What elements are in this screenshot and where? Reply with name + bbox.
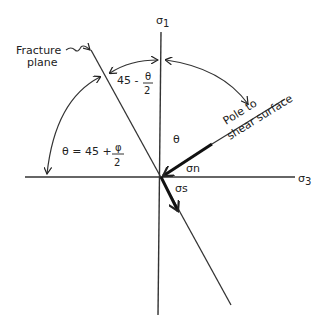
sigma3-label: σ3 [298,172,311,187]
angle-upper-num: θ [145,71,151,82]
angle-lower-den: 2 [114,157,120,168]
plane-label: plane [27,56,58,69]
theta-label: θ [173,133,180,146]
angle-lower-num: φ [115,142,122,153]
fracture-diagram: σ1 σ3 Fracture plane 45 - θ 2 θ = 45 + φ… [0,0,325,334]
theta-arc [166,60,248,104]
fracture-leader [66,46,90,51]
sigma1-label: σ1 [156,14,169,29]
angle-arc-lower [47,77,100,174]
angle-upper-label: 45 - [117,74,138,87]
sigma-s-label: σs [175,182,188,195]
angle-upper-den: 2 [144,85,150,96]
angle-lower-label: θ = 45 + [62,145,112,158]
sigma-n-label: σn [186,162,200,175]
